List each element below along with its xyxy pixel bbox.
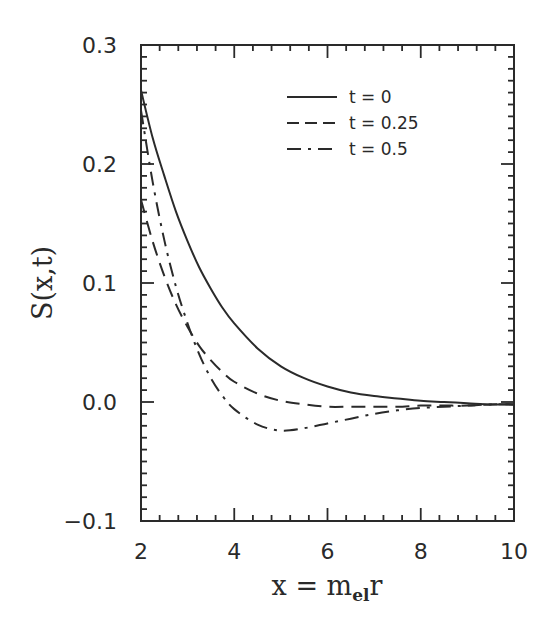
legend-label: t = 0 bbox=[349, 87, 392, 107]
x-axis-title: x = melr bbox=[272, 570, 383, 605]
plot-frame bbox=[141, 45, 514, 521]
legend-label: t = 0.5 bbox=[349, 139, 408, 159]
data-curves bbox=[141, 90, 514, 430]
axis-ticks bbox=[141, 45, 514, 521]
line-chart: 246810−0.10.00.10.20.3 S(x,t) x = melr t… bbox=[0, 0, 552, 628]
x-tick-label: 8 bbox=[414, 539, 428, 564]
y-tick-label: 0.0 bbox=[82, 390, 117, 415]
series-line-dashdot bbox=[141, 110, 514, 430]
tick-labels: 246810−0.10.00.10.20.3 bbox=[64, 33, 528, 564]
legend-label: t = 0.25 bbox=[349, 113, 419, 133]
x-tick-label: 10 bbox=[500, 539, 528, 564]
series-line-solid bbox=[141, 90, 514, 404]
series-line-dashed bbox=[141, 200, 514, 407]
x-tick-label: 6 bbox=[321, 539, 335, 564]
y-tick-label: 0.2 bbox=[82, 152, 117, 177]
y-tick-label: −0.1 bbox=[64, 509, 117, 534]
x-tick-label: 4 bbox=[227, 539, 241, 564]
y-tick-label: 0.3 bbox=[82, 33, 117, 58]
y-axis-title: S(x,t) bbox=[27, 246, 58, 320]
y-tick-label: 0.1 bbox=[82, 271, 117, 296]
legend: t = 0t = 0.25t = 0.5 bbox=[287, 87, 419, 159]
x-tick-label: 2 bbox=[134, 539, 148, 564]
